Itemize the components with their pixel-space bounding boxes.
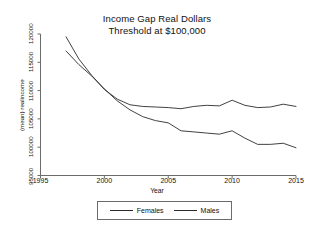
legend-label: Males: [201, 207, 220, 214]
plot-area: [0, 0, 314, 235]
x-axis-title: Year: [0, 187, 314, 194]
x-axis-tick-label: 2000: [97, 177, 113, 184]
x-axis-tick-label: 2005: [160, 177, 176, 184]
legend-item-males: Males: [174, 207, 220, 214]
x-axis-tick-label: 2010: [224, 177, 240, 184]
chart-container: Income Gap Real Dollars Threshold at $10…: [0, 0, 314, 235]
series-line-males: [66, 37, 296, 109]
x-axis-tick-label: 2015: [288, 177, 304, 184]
legend-label: Females: [137, 207, 164, 214]
axis-lines: [41, 34, 297, 176]
legend-line-icon: [110, 210, 133, 211]
chart-legend: Females Males: [97, 201, 232, 220]
series-line-females: [66, 51, 296, 148]
data-series-group: [66, 37, 296, 148]
x-axis-tick-label: 1995: [33, 177, 49, 184]
legend-item-females: Females: [110, 207, 164, 214]
legend-line-icon: [174, 210, 197, 211]
